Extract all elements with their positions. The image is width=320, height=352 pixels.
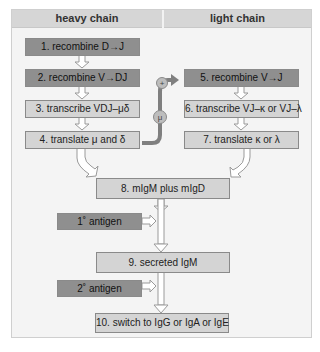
step-3-box: 3. transcribe VDJ–μδ [25,100,140,118]
arrow-1-to-2 [75,55,89,68]
step-1-box: 1. recombine D→J [25,38,140,56]
arrow-3-to-4 [75,117,89,130]
arrow-antigen1 [142,215,156,227]
step-9-box: 9. secreted IgM [96,252,230,273]
step-2-box: 2. recombine V→DJ [25,69,140,87]
arrow-5-to-6 [234,86,248,99]
arrow-2-to-3 [75,86,89,99]
step-10-box: 10. switch to IgG or IgA or IgE [95,313,229,333]
arrow-6-to-7 [234,117,248,130]
step-5-box: 5. recombine V→J [184,69,299,87]
secondary-antigen-box: 2˚ antigen [57,280,142,297]
svg-text:μ: μ [158,113,163,122]
primary-antigen-box: 1˚ antigen [57,213,142,230]
step-7-box: 7. translate κ or λ [184,131,299,149]
arrow-antigen2 [142,280,156,292]
step-6-box: 6. transcribe VJ–κ or VJ–λ [184,100,299,118]
step-8-box: 8. mIgM plus mIgD [96,178,230,199]
svg-text:+: + [160,79,165,88]
arrow-7-to-8 [230,148,250,177]
step-4-box: 4. translate μ and δ [25,131,140,149]
